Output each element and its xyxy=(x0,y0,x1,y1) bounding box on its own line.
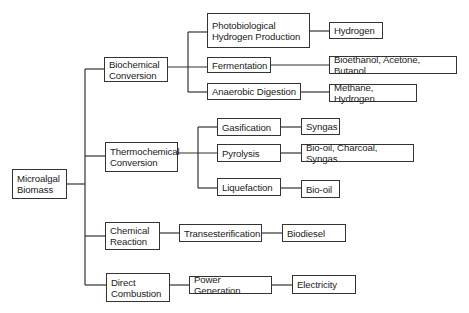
node-transesterification: Transesterification xyxy=(179,224,262,242)
node-methane-hydrogen: Methane, Hydrogen xyxy=(329,84,417,102)
node-biooil: Bio-oil xyxy=(301,180,340,198)
node-label: Transesterification xyxy=(184,228,260,239)
node-label: Photobiological Hydrogen Production xyxy=(212,20,300,42)
node-label: Bio-oil xyxy=(306,184,332,195)
node-label: Power Generation xyxy=(194,274,267,296)
node-label: Direct Combustion xyxy=(111,277,161,299)
node-label: Syngas xyxy=(306,121,337,132)
node-biooil-charcoal-syngas: Bio-oil, Charcoal, Syngas xyxy=(301,144,414,162)
node-label: Biodiesel xyxy=(287,228,325,239)
node-photobiological-hydrogen: Photobiological Hydrogen Production xyxy=(207,13,310,48)
node-label: Thermochemical Conversion xyxy=(110,146,180,168)
node-label: Gasification xyxy=(222,122,271,133)
node-biochemical-conversion: Biochemical Conversion xyxy=(104,57,168,82)
node-power-generation: Power Generation xyxy=(189,276,272,294)
node-chemical-reaction: Chemical Reaction xyxy=(105,222,160,250)
node-hydrogen: Hydrogen xyxy=(329,22,383,39)
node-label: Hydrogen xyxy=(334,25,375,36)
node-label: Pyrolysis xyxy=(222,148,259,159)
node-anaerobic-digestion: Anaerobic Digestion xyxy=(207,83,301,100)
node-bioethanol-acetone-butanol: Bioethanol, Acetone, Butanol xyxy=(329,56,457,74)
node-syngas: Syngas xyxy=(301,118,340,135)
node-label: Microalgal Biomass xyxy=(17,173,60,195)
node-label: Bioethanol, Acetone, Butanol xyxy=(334,54,452,76)
node-direct-combustion: Direct Combustion xyxy=(106,273,170,302)
node-fermentation: Fermentation xyxy=(207,57,271,73)
node-thermochemical-conversion: Thermochemical Conversion xyxy=(105,142,178,172)
node-label: Biochemical Conversion xyxy=(109,59,160,81)
node-label: Liquefaction xyxy=(222,182,273,193)
node-label: Bio-oil, Charcoal, Syngas xyxy=(306,142,409,164)
node-microalgal-biomass: Microalgal Biomass xyxy=(12,169,67,199)
node-label: Fermentation xyxy=(212,60,267,71)
node-liquefaction: Liquefaction xyxy=(217,178,281,196)
node-label: Anaerobic Digestion xyxy=(212,86,296,97)
node-gasification: Gasification xyxy=(217,118,281,136)
node-pyrolysis: Pyrolysis xyxy=(217,144,281,162)
node-label: Chemical Reaction xyxy=(110,225,149,247)
node-electricity: Electricity xyxy=(292,275,356,294)
node-biodiesel: Biodiesel xyxy=(282,224,346,242)
node-label: Methane, Hydrogen xyxy=(334,82,412,104)
node-label: Electricity xyxy=(297,279,337,290)
